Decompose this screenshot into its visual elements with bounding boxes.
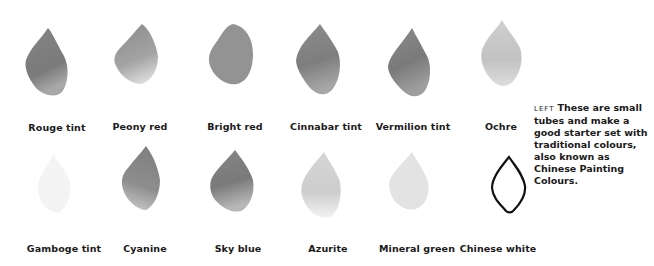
swatch-label: Gamboge tint: [27, 243, 101, 254]
caption: LEFTThese are small tubes and make a goo…: [534, 102, 652, 187]
swatch-rouge-tint: [22, 26, 72, 98]
swatch-label: Cinnabar tint: [290, 121, 362, 132]
swatch-label: Peony red: [112, 121, 167, 132]
swatch-cinnabar-tint: [294, 22, 344, 98]
swatch-chinese-white: [488, 154, 530, 216]
swatch-mineral-green: [386, 150, 434, 214]
swatch-peony-red: [110, 22, 162, 86]
swatch-label: Ochre: [485, 121, 517, 132]
swatch-ochre: [478, 18, 524, 90]
swatch-label: Cyanine: [123, 243, 167, 254]
swatch-label: Chinese white: [460, 243, 537, 254]
swatch-gamboge-tint: [34, 152, 74, 216]
swatch-label: Bright red: [207, 121, 263, 132]
swatch-sky-blue: [207, 148, 257, 216]
swatch-label: Mineral green: [379, 243, 455, 254]
swatch-cyanine: [118, 144, 164, 214]
swatch-vermilion-tint: [384, 26, 434, 100]
swatch-label: Azurite: [308, 243, 347, 254]
swatch-label: Sky blue: [215, 243, 262, 254]
swatch-label: Vermilion tint: [376, 121, 451, 132]
caption-tag: LEFT: [534, 105, 555, 113]
swatch-azurite: [298, 150, 346, 224]
swatch-label: Rouge tint: [28, 122, 85, 133]
caption-text: These are small tubes and make a good st…: [534, 102, 648, 186]
swatch-bright-red: [205, 22, 257, 88]
